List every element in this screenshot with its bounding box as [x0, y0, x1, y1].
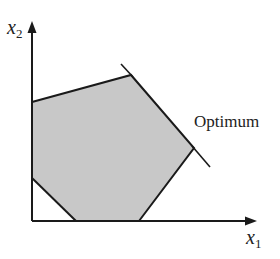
optimum-label: Optimum: [194, 112, 259, 131]
feasible-region: [32, 75, 194, 221]
lp-diagram: x2 x1 Optimum: [0, 0, 280, 259]
y-axis-label: x2: [6, 16, 22, 41]
objective-line-top: [121, 64, 133, 77]
y-axis-arrow-icon: [28, 21, 37, 33]
x-axis-arrow-icon: [245, 217, 257, 226]
x-axis-label: x1: [245, 226, 261, 251]
objective-line-optimum: [192, 146, 210, 167]
